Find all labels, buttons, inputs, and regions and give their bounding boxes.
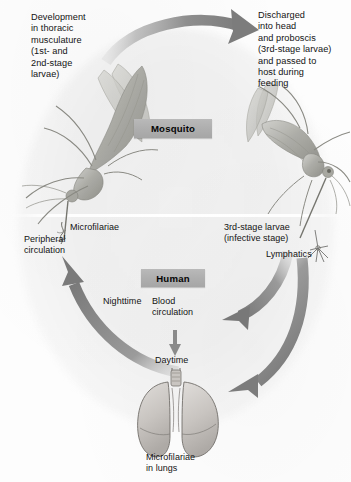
right-curved-arrow-to-human [222, 252, 288, 330]
label-peripheral-circulation: Peripheral circulation [24, 234, 66, 256]
label-daytime: Daytime [155, 355, 188, 366]
label-microfilariae-in-lungs: Microfilariae in lungs [146, 452, 195, 474]
stage-label-human: Human [141, 269, 205, 287]
lungs-illustration [138, 368, 219, 457]
mosquito-left-illustration [22, 64, 158, 240]
stage-label-mosquito: Mosquito [134, 119, 212, 138]
label-development-in-thoracic-musculature: Development in thoracic musculature (1st… [31, 12, 86, 80]
label-lymphatics: Lymphatics [266, 249, 312, 260]
label-third-stage-larvae: 3rd-stage larvae (infective stage) [224, 222, 290, 244]
top-curved-arrow [106, 9, 259, 62]
filariasis-life-cycle-figure: Development in thoracic musculature (1st… [0, 0, 351, 482]
right-curved-arrow-to-lungs [228, 258, 303, 398]
label-blood-circulation: Blood circulation [152, 296, 193, 318]
label-microfilariae: Microfilariae [70, 222, 119, 233]
mosquito-right-illustration [246, 82, 350, 238]
label-nighttime: Nighttime [103, 296, 141, 307]
daytime-down-arrow [169, 330, 181, 356]
label-discharged-into-head: Discharged into head and proboscis (3rd-… [258, 10, 331, 90]
